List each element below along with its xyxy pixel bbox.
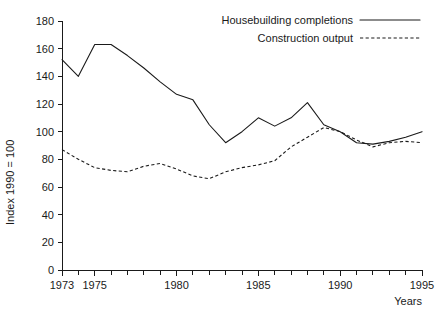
line-chart-canvas: Index 1990 = 100 Years Housebuilding com…: [0, 0, 445, 324]
legend-label-construction-output: Construction output: [258, 32, 353, 44]
y-axis-tick-label: 0: [48, 264, 54, 276]
x-axis-tick-label: 1975: [82, 279, 106, 291]
chart-legend: Housebuilding completions Construction o…: [222, 14, 420, 44]
y-axis-tick-label: 20: [42, 236, 54, 248]
x-axis-tick-label: 1973: [50, 279, 74, 291]
y-axis-tick-label: 180: [36, 15, 54, 27]
legend-label-housebuilding-completions: Housebuilding completions: [222, 14, 354, 26]
y-axis-tick-label: 40: [42, 209, 54, 221]
y-axis-tick-label: 60: [42, 181, 54, 193]
y-axis-tick-label: 100: [36, 126, 54, 138]
y-axis-tick-label: 140: [36, 70, 54, 82]
series-line-construction-output: [62, 128, 422, 179]
y-axis-tick-label: 80: [42, 153, 54, 165]
x-axis-tick-group: [62, 270, 422, 276]
series-line-housebuilding-completions: [62, 45, 422, 145]
x-axis-tick-label: 1995: [410, 279, 434, 291]
x-axis-label-group: 197319751980198519901995: [50, 279, 434, 291]
chart-figure: Index 1990 = 100 Years Housebuilding com…: [0, 0, 445, 324]
x-axis-title: Years: [394, 295, 422, 307]
y-axis-tick-group: [58, 21, 62, 270]
y-axis-title: Index 1990 = 100: [4, 140, 16, 225]
y-axis-tick-label: 160: [36, 43, 54, 55]
x-axis-tick-label: 1980: [164, 279, 188, 291]
x-axis-tick-label: 1985: [246, 279, 270, 291]
y-axis-tick-label: 120: [36, 98, 54, 110]
y-axis-label-group: 020406080100120140160180: [36, 15, 54, 276]
x-axis-tick-label: 1990: [328, 279, 352, 291]
